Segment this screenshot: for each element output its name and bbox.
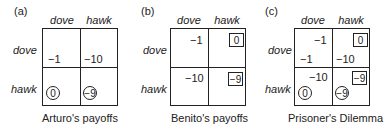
- cell-dove-dove-row-payoff: −1: [300, 53, 313, 65]
- divider: [295, 67, 369, 68]
- cell-hawk-hawk-row-payoff-circled: −9: [335, 86, 349, 100]
- panel-c: (c) dove hawk dove hawk −1 −1 0 −10 −10 …: [255, 0, 389, 132]
- panel-label: (b): [141, 5, 154, 17]
- row-header-hawk: hawk: [141, 83, 167, 95]
- cell-dove-hawk-col-payoff-boxed: 0: [229, 33, 244, 47]
- panel-b: (b) dove hawk dove hawk −1 0 −10 −9 Beni…: [127, 0, 257, 132]
- row-header-hawk: hawk: [11, 83, 37, 95]
- cell-dove-dove-row-payoff: −1: [48, 53, 61, 65]
- column-header-hawk: hawk: [208, 14, 246, 26]
- panel-label: (c): [265, 5, 278, 17]
- row-header-dove: dove: [143, 44, 167, 56]
- column-header-dove: dove: [294, 14, 332, 26]
- cell-dove-dove-col-payoff: −1: [314, 34, 327, 46]
- cell-hawk-dove-row-payoff-circled: 0: [298, 86, 312, 100]
- caption: Arturo's payoffs: [42, 112, 118, 124]
- cell-dove-hawk-col-payoff-boxed: 0: [353, 33, 368, 47]
- divider: [43, 67, 117, 68]
- cell-dove-hawk-row-payoff: −10: [84, 53, 103, 65]
- row-header-dove: dove: [13, 44, 37, 56]
- payoff-matrix: −1 −10 0 −9: [42, 28, 118, 106]
- cell-hawk-dove-col-payoff: −10: [185, 72, 204, 84]
- panel-a: (a) dove hawk dove hawk −1 −10 0 −9 Artu…: [0, 0, 130, 132]
- cell-dove-hawk-row-payoff: −10: [336, 53, 355, 65]
- panel-label: (a): [14, 5, 27, 17]
- column-header-hawk: hawk: [80, 14, 118, 26]
- cell-hawk-hawk-col-payoff-boxed: −9: [352, 71, 367, 85]
- cell-hawk-hawk-row-payoff-circled: −9: [83, 86, 97, 100]
- divider: [171, 67, 245, 68]
- row-header-hawk: hawk: [265, 83, 291, 95]
- cell-dove-dove-col-payoff: −1: [190, 34, 203, 46]
- cell-hawk-dove-row-payoff-circled: 0: [46, 86, 60, 100]
- caption: Benito's payoffs: [171, 112, 248, 124]
- cell-hawk-dove-col-payoff: −10: [309, 71, 328, 83]
- caption: Prisoner's Dilemma: [288, 112, 383, 124]
- cell-hawk-hawk-col-payoff-boxed: −9: [228, 72, 243, 86]
- column-header-hawk: hawk: [332, 14, 370, 26]
- payoff-matrix: −1 −1 0 −10 −10 0 −9 −9: [294, 28, 370, 106]
- payoff-matrix: −1 0 −10 −9: [170, 28, 246, 106]
- column-header-dove: dove: [170, 14, 208, 26]
- column-header-dove: dove: [43, 14, 81, 26]
- row-header-dove: dove: [268, 44, 292, 56]
